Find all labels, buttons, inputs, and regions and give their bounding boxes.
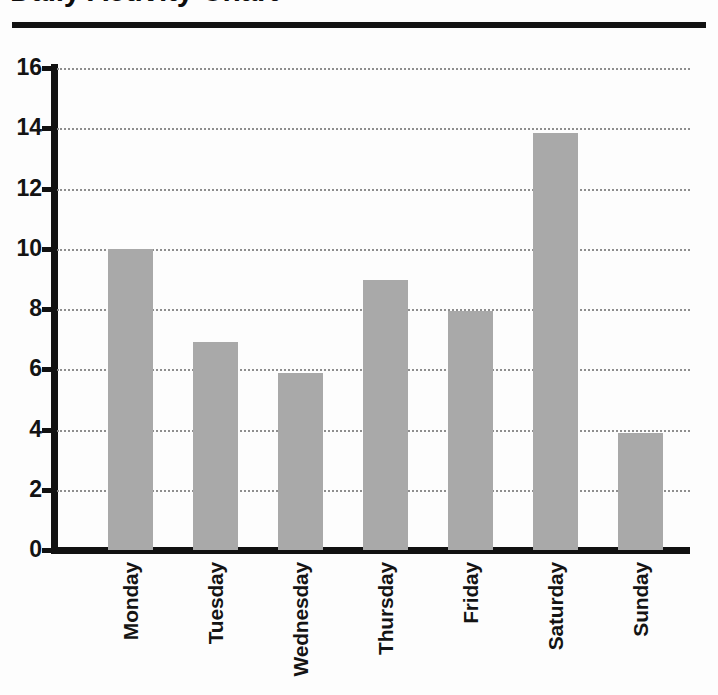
y-tick-label: 16: [2, 56, 42, 79]
y-tick-label: 14: [2, 116, 42, 139]
x-tick-label-text: Tuesday: [204, 562, 228, 644]
x-tick-label-text: Saturday: [544, 562, 568, 650]
bar: [618, 433, 663, 550]
chart-page: Daily Activity Chart 1614121086420 Monda…: [0, 0, 718, 695]
y-tick-mark: [42, 367, 53, 372]
y-tick-mark: [42, 66, 53, 71]
y-tick-mark: [42, 126, 53, 131]
x-tick-label-monday: Monday: [108, 562, 153, 692]
x-tick-label-saturday: Saturday: [533, 562, 578, 692]
bar: [448, 311, 493, 550]
y-tick-mark: [42, 548, 53, 553]
gridline: [57, 68, 690, 70]
x-tick-label-text: Friday: [459, 562, 483, 624]
x-tick-label-text: Wednesday: [289, 562, 313, 677]
x-tick-label-text: Thursday: [374, 562, 398, 655]
y-tick-mark: [42, 247, 53, 252]
plot-area: [57, 68, 690, 550]
bar: [278, 373, 323, 550]
x-tick-label-sunday: Sunday: [618, 562, 663, 692]
y-tick-mark: [42, 428, 53, 433]
y-tick-label: 10: [2, 237, 42, 260]
gridline: [57, 128, 690, 130]
x-tick-label-friday: Friday: [448, 562, 493, 692]
y-tick-label: 6: [2, 357, 42, 380]
y-tick-label: 12: [2, 177, 42, 200]
y-tick-mark: [42, 488, 53, 493]
x-tick-label-text: Sunday: [629, 562, 653, 637]
x-tick-label-text: Monday: [119, 562, 143, 640]
bar: [533, 133, 578, 550]
y-tick-label: 8: [2, 297, 42, 320]
bar: [363, 280, 408, 550]
y-tick-mark: [42, 307, 53, 312]
x-tick-label-tuesday: Tuesday: [193, 562, 238, 692]
bar: [108, 249, 153, 550]
y-tick-label: 4: [2, 418, 42, 441]
gridline: [57, 189, 690, 191]
y-tick-mark: [42, 187, 53, 192]
y-tick-label: 2: [2, 478, 42, 501]
bar: [193, 342, 238, 550]
bar-chart: 1614121086420 MondayTuesdayWednesdayThur…: [0, 0, 718, 695]
x-tick-label-wednesday: Wednesday: [278, 562, 323, 692]
y-tick-label: 0: [2, 538, 42, 561]
x-tick-label-thursday: Thursday: [363, 562, 408, 692]
